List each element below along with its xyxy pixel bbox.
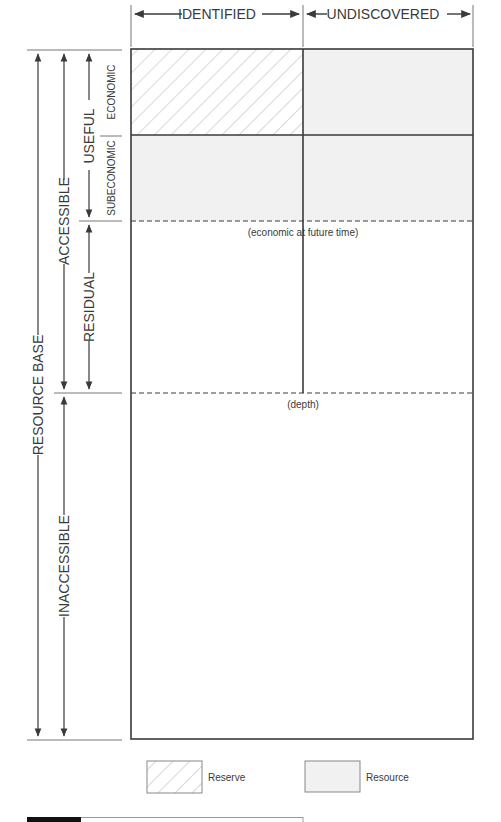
resource-base-dimension: RESOURCE BASE: [30, 54, 46, 736]
undiscovered-economic-cell: [303, 49, 473, 135]
subeconomic-label: SUBECONOMIC: [106, 140, 117, 216]
inaccessible-label: INACCESSIBLE: [56, 515, 72, 617]
reserve-swatch: [147, 761, 202, 793]
column-header-identified: IDENTIFIED: [131, 5, 299, 47]
legend: Reserve Resource: [147, 761, 409, 793]
reserve-cell: [131, 49, 303, 135]
residual-label: RESIDUAL: [81, 272, 97, 342]
useful-label: USEFUL: [81, 108, 97, 163]
useful-dimension: USEFUL: [81, 54, 97, 217]
reserve-legend-label: Reserve: [208, 772, 246, 783]
footer-bar: [27, 817, 81, 822]
future-time-label: (economic at future time): [248, 227, 359, 238]
accessible-label: ACCESSIBLE: [56, 177, 72, 265]
economic-label: ECONOMIC: [106, 65, 117, 120]
accessible-dimension: ACCESSIBLE: [56, 54, 72, 389]
identified-subeconomic-cell: [131, 135, 303, 221]
identified-label: IDENTIFIED: [178, 6, 256, 22]
resource-swatch: [305, 761, 360, 792]
resource-legend-label: Resource: [366, 772, 409, 783]
undiscovered-subeconomic-cell: [303, 135, 473, 221]
undiscovered-label: UNDISCOVERED: [327, 6, 440, 22]
inaccessible-dimension: INACCESSIBLE: [56, 397, 72, 736]
residual-dimension: RESIDUAL: [81, 225, 97, 389]
resource-classification-diagram: IDENTIFIED UNDISCOVERED (economic at fut…: [0, 0, 501, 822]
column-header-undiscovered: UNDISCOVERED: [303, 5, 473, 47]
depth-label: (depth): [287, 399, 319, 410]
resource-base-label: RESOURCE BASE: [30, 335, 46, 456]
